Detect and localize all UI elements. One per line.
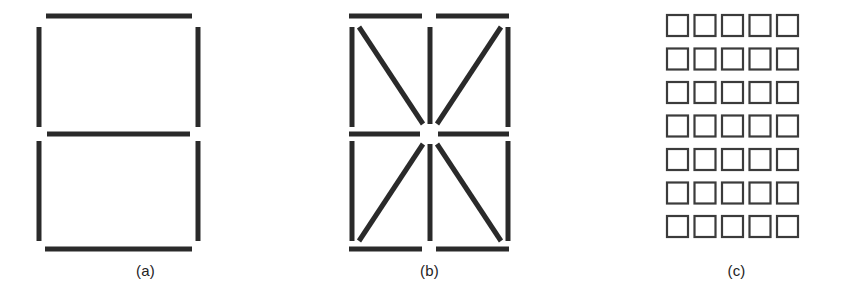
grid-square [667,15,688,36]
grid-square [667,82,688,103]
grid-square [667,49,688,70]
panel-c: (c) [570,0,855,306]
grid-square [695,82,716,103]
grid-square [750,149,771,170]
grid-square [777,15,798,36]
grid-square [695,149,716,170]
grid-square [777,216,798,237]
grid-square [750,216,771,237]
grid-square [750,116,771,137]
grid-square [695,49,716,70]
grid-square [750,183,771,204]
grid-square [667,116,688,137]
panel-b-caption: (b) [285,262,570,279]
grid-square [777,149,798,170]
segment-diagonal-top-left-to-centre [359,27,423,124]
grid-square [722,116,743,137]
square-grid [667,15,798,237]
grid-square [777,49,798,70]
grid-square [777,183,798,204]
panel-b-segments [349,16,509,249]
grid-square [667,183,688,204]
grid-square [722,82,743,103]
panel-a: (a) [0,0,285,306]
segment-diagonal-top-right-to-centre [437,27,501,124]
grid-square [722,49,743,70]
grid-square [695,15,716,36]
grid-square [722,149,743,170]
panel-a-canvas [0,0,285,265]
grid-square [722,216,743,237]
panel-b: (b) [285,0,570,306]
grid-square [695,183,716,204]
grid-square [722,183,743,204]
panel-c-canvas [570,0,855,265]
grid-square [695,216,716,237]
segment-diagonal-bottom-left-to-centre [359,144,423,241]
grid-square [777,116,798,137]
grid-square [750,82,771,103]
segment-diagonal-bottom-right-to-centre [437,144,501,241]
grid-square [750,49,771,70]
grid-square [667,149,688,170]
panel-a-segments [39,16,198,249]
grid-square [750,15,771,36]
figure-root: (a) (b) [0,0,855,306]
grid-square [695,116,716,137]
panel-c-caption: (c) [570,262,855,279]
panel-b-canvas [285,0,570,265]
grid-square [667,216,688,237]
grid-square [777,82,798,103]
grid-square [722,15,743,36]
panel-a-caption: (a) [0,262,285,279]
